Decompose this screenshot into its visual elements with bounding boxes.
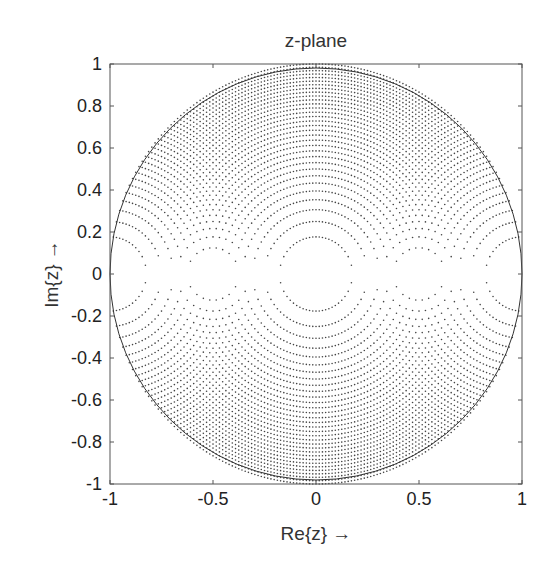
- x-tick-label: 0: [311, 489, 321, 510]
- y-tick-label: -0.4: [71, 348, 102, 369]
- x-tick-label: 0.5: [406, 489, 431, 510]
- x-tick-label: -0.5: [197, 489, 228, 510]
- y-tick-label: -1: [86, 474, 102, 495]
- y-axis-label: Im{z} →: [41, 240, 63, 308]
- x-tick-label: -1: [102, 489, 118, 510]
- y-tick-label: 1: [92, 54, 102, 75]
- z-plane-plot: [0, 0, 551, 570]
- chart-title: z-plane: [0, 30, 551, 52]
- y-tick-label: -0.2: [71, 306, 102, 327]
- y-tick-label: 0.8: [77, 96, 102, 117]
- y-tick-label: -0.8: [71, 432, 102, 453]
- pole-dots: [112, 63, 519, 485]
- y-tick-label: 0.2: [77, 222, 102, 243]
- y-tick-label: 0: [92, 264, 102, 285]
- y-tick-label: 0.4: [77, 180, 102, 201]
- y-tick-label: -0.6: [71, 390, 102, 411]
- x-tick-label: 1: [517, 489, 527, 510]
- x-axis-label: Re{z} →: [0, 523, 551, 545]
- y-tick-label: 0.6: [77, 138, 102, 159]
